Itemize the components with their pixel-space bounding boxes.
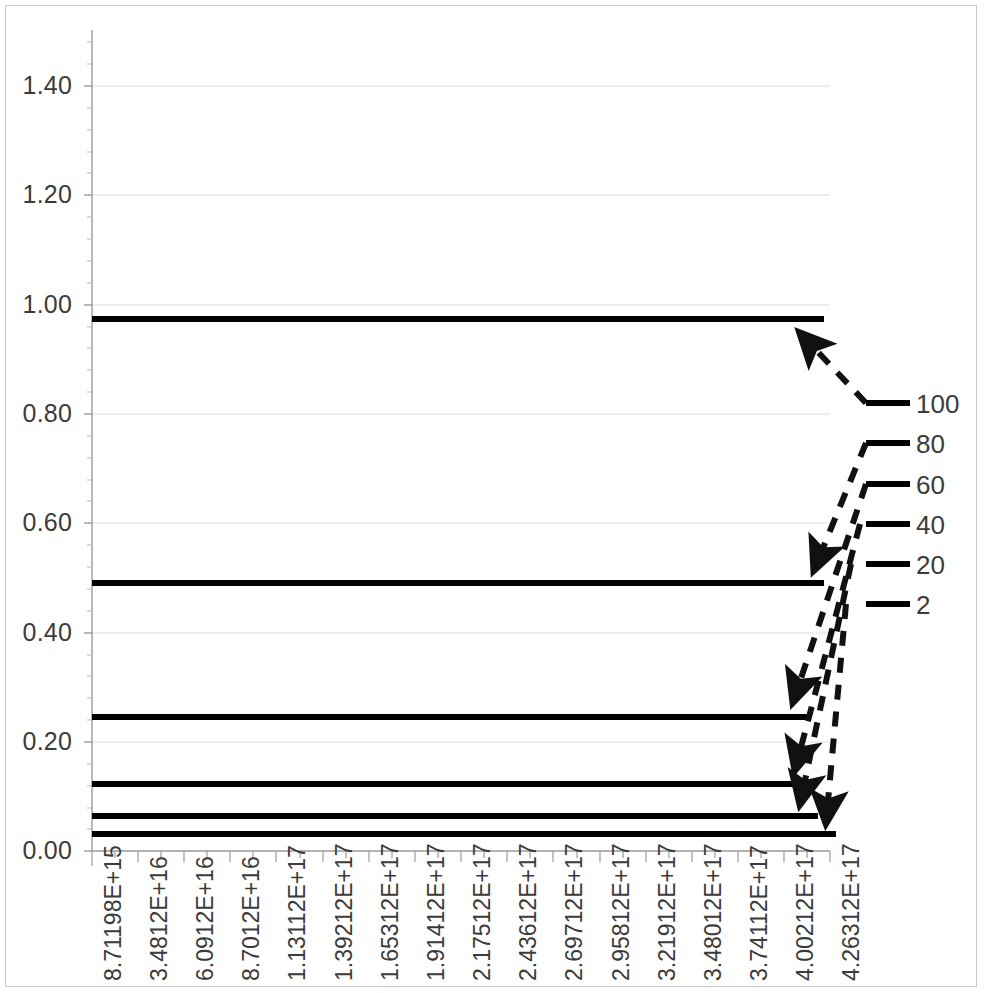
x-tick-label: 3.74112E+17 xyxy=(746,845,773,981)
x-tick-label: 2.95812E+17 xyxy=(608,844,635,982)
x-tick-label: 1.13112E+17 xyxy=(284,845,311,981)
x-tick-label: 2.17512E+17 xyxy=(469,844,496,982)
leader-line-40 xyxy=(795,524,860,770)
leader-lines xyxy=(793,333,866,823)
y-tick-label: 0.00 xyxy=(0,836,72,865)
legend-item-60[interactable]: 60 xyxy=(916,470,945,501)
x-tick-label: 4.26312E+17 xyxy=(838,844,865,982)
y-tick-label: 1.00 xyxy=(0,290,72,319)
x-tick-label: 6.0912E+16 xyxy=(192,856,219,981)
x-tick-label: 3.48012E+17 xyxy=(700,844,727,982)
x-tick-label: 1.91412E+17 xyxy=(423,844,450,982)
axis-lines xyxy=(92,30,830,851)
series-lines xyxy=(92,319,836,834)
leader-line-60 xyxy=(793,484,866,702)
x-tick-label: 3.4812E+16 xyxy=(146,856,173,981)
chart-figure: 1.40 1.20 1.00 0.80 0.60 0.40 0.20 0.00 … xyxy=(0,0,985,993)
x-tick-label: 4.00212E+17 xyxy=(792,844,819,982)
leader-line-80 xyxy=(814,443,866,570)
x-tick-label: 8.7012E+16 xyxy=(238,856,265,981)
legend-swatches xyxy=(866,403,910,604)
y-tick-label: 0.80 xyxy=(0,399,72,428)
legend-item-2[interactable]: 2 xyxy=(916,590,930,621)
x-tick-label: 1.65312E+17 xyxy=(377,844,404,982)
y-tick-label: 1.20 xyxy=(0,180,72,209)
legend-item-40[interactable]: 40 xyxy=(916,510,945,541)
y-tick-label: 0.60 xyxy=(0,508,72,537)
x-tick-label: 3.21912E+17 xyxy=(654,844,681,982)
y-tick-label: 1.40 xyxy=(0,71,72,100)
y-tick-label: 0.20 xyxy=(0,727,72,756)
x-tick-label: 1.39212E+17 xyxy=(331,844,358,982)
y-axis-major-ticks xyxy=(84,86,92,851)
x-tick-label: 2.69712E+17 xyxy=(561,844,588,982)
y-tick-label: 0.40 xyxy=(0,618,72,647)
x-tick-label: 2.43612E+17 xyxy=(515,844,542,982)
legend-item-80[interactable]: 80 xyxy=(916,429,945,460)
y-axis-minor-ticks xyxy=(87,42,92,829)
leader-line-100 xyxy=(800,333,866,403)
x-tick-label: 8.71198E+15 xyxy=(100,845,127,981)
gridlines xyxy=(92,86,830,742)
legend-item-100[interactable]: 100 xyxy=(916,389,959,420)
legend-item-20[interactable]: 20 xyxy=(916,550,945,581)
